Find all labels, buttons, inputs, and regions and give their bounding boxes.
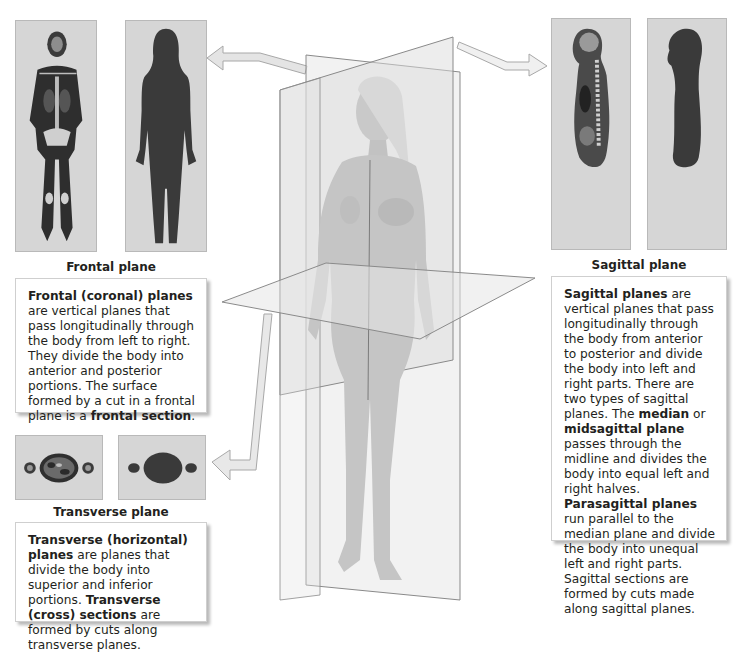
transverse-plane-shape bbox=[222, 263, 535, 339]
frontal-desc-end: . bbox=[191, 409, 195, 423]
sagittal-silhouette-image bbox=[648, 19, 726, 249]
sagittal-desc-median: median bbox=[638, 407, 689, 421]
sagittal-desc-text-2: passes through the midline and divides t… bbox=[564, 437, 709, 496]
frontal-desc-term: Frontal (coronal) planes bbox=[28, 289, 193, 303]
frontal-plane-caption: Frontal plane bbox=[15, 260, 207, 274]
sagittal-desc-or: or bbox=[689, 407, 705, 421]
frontal-desc-term-section: frontal section bbox=[91, 409, 192, 423]
transverse-mri-image bbox=[16, 436, 102, 499]
sagittal-desc-text-3: run parallel to the median plane and div… bbox=[564, 512, 715, 616]
sagittal-mri-image bbox=[552, 19, 630, 249]
transverse-silhouette-image bbox=[119, 436, 205, 499]
sagittal-silhouette-panel bbox=[647, 18, 727, 250]
frontal-silhouette-image bbox=[126, 21, 206, 251]
sagittal-plane-description: Sagittal planes are vertical planes that… bbox=[551, 276, 727, 541]
sagittal-mri-panel bbox=[551, 18, 631, 250]
sagittal-plane-caption: Sagittal plane bbox=[551, 258, 727, 272]
frontal-plane-description: Frontal (coronal) planes are vertical pl… bbox=[15, 278, 207, 413]
transverse-silhouette-panel bbox=[118, 435, 206, 500]
anatomical-figure-with-planes bbox=[220, 0, 560, 618]
frontal-desc-text: are vertical planes that pass longitudin… bbox=[28, 304, 195, 423]
frontal-mri-panel bbox=[15, 20, 97, 252]
frontal-silhouette-panel bbox=[125, 20, 207, 252]
transverse-mri-panel bbox=[15, 435, 103, 500]
sagittal-desc-term: Sagittal planes bbox=[564, 287, 668, 301]
sagittal-desc-parasagittal: Parasagittal planes bbox=[564, 497, 697, 511]
transverse-plane-description: Transverse (horizontal) planes are plane… bbox=[15, 522, 207, 622]
transverse-plane-caption: Transverse plane bbox=[15, 505, 207, 519]
frontal-mri-image bbox=[16, 21, 96, 251]
sagittal-desc-text-1: are vertical planes that pass longitudin… bbox=[564, 287, 714, 421]
sagittal-desc-midsagittal: midsagittal plane bbox=[564, 422, 684, 436]
